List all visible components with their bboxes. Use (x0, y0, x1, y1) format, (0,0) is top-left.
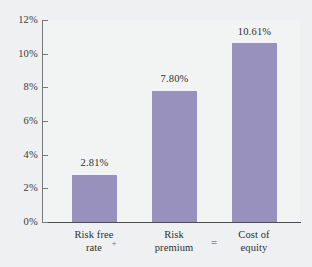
y-axis-tick-10 (42, 54, 48, 55)
y-axis-label-10: 10% (18, 49, 38, 60)
bar-cost-of-equity (232, 43, 277, 222)
value-label-risk-free-rate: 2.81% (55, 158, 134, 169)
category-line-1: Cost of (238, 229, 269, 240)
y-axis-tick-2 (42, 188, 48, 189)
bar-risk-free-rate (72, 175, 117, 222)
category-label-cost-of-equity: Cost of equity (215, 228, 293, 254)
y-axis-tick-6 (42, 121, 48, 122)
bar-risk-premium (152, 91, 197, 222)
y-axis-label-12: 12% (18, 15, 38, 26)
bar-chart: 12% 10% 8% 6% 4% 2% 0% 2.81% 7.80% 10.61… (0, 0, 312, 267)
value-label-risk-premium: 7.80% (135, 74, 214, 85)
y-axis-label-2: 2% (24, 183, 38, 194)
y-axis-label-6: 6% (24, 116, 38, 127)
category-label-risk-premium: Risk premium (135, 228, 213, 254)
category-line-2: equity (215, 241, 293, 254)
operator-plus-symbol: + (104, 237, 124, 250)
y-axis-tick-0 (42, 222, 48, 223)
y-axis-label-4: 4% (24, 150, 38, 161)
y-axis-tick-12 (42, 20, 48, 21)
y-axis-label-0: 0% (24, 217, 38, 228)
category-line-2: premium (135, 241, 213, 254)
x-axis-spine (42, 222, 301, 223)
y-axis-tick-8 (42, 87, 48, 88)
category-line-1: Risk (164, 229, 184, 240)
y-axis-tick-4 (42, 155, 48, 156)
value-label-cost-of-equity: 10.61% (215, 27, 294, 38)
y-axis-label-8: 8% (24, 82, 38, 93)
operator-equals-symbol: = (204, 236, 224, 249)
